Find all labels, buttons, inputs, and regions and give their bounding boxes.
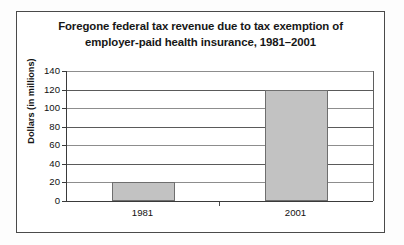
y-tick-mark: [62, 71, 66, 72]
y-tick-label: 80: [18, 121, 60, 132]
y-tick-label: 60: [18, 139, 60, 150]
y-tick-label: 40: [18, 158, 60, 169]
y-tick-label: 100: [18, 102, 60, 113]
y-tick-mark: [62, 201, 66, 202]
y-tick-mark: [62, 182, 66, 183]
y-tick-label: 20: [18, 176, 60, 187]
bar-1981: [112, 182, 175, 201]
y-tick-mark: [62, 164, 66, 165]
x-tick-label-1981: 1981: [113, 207, 173, 218]
gridline: [67, 71, 373, 72]
y-tick-label: 140: [18, 65, 60, 76]
y-tick-mark: [62, 90, 66, 91]
bar-2001: [265, 90, 328, 201]
chart-plot-wrapper: Dollars (in millions) 020406080100120140…: [0, 0, 404, 245]
y-tick-label: 120: [18, 84, 60, 95]
plot-area: [66, 71, 373, 202]
y-tick-mark: [62, 145, 66, 146]
y-tick-mark: [62, 127, 66, 128]
plot-right-edge: [373, 71, 374, 201]
x-tick-label-2001: 2001: [266, 207, 326, 218]
y-tick-label: 0: [18, 195, 60, 206]
y-tick-mark: [62, 108, 66, 109]
x-axis-mid-tick: [219, 202, 220, 206]
